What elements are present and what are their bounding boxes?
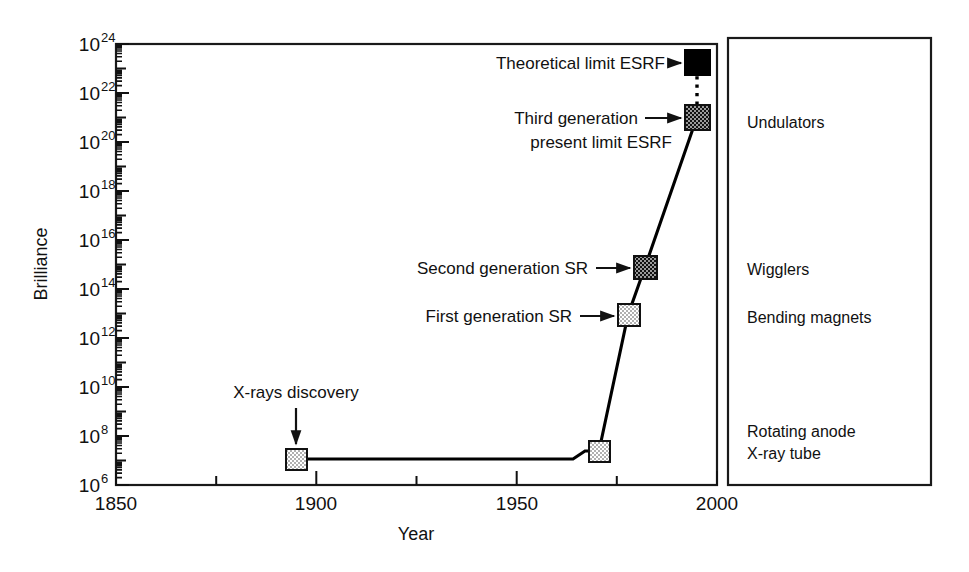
x-tick-label-2000: 2000	[696, 493, 738, 514]
annotation-third-generation-line1: Third generation	[514, 109, 638, 128]
annotation-third-generation-line2: present limit ESRF	[530, 133, 672, 152]
y-axis-tick-labels: 10 6 10 8 10 10 10 12 10 14 10 16	[79, 30, 116, 496]
y-tick-exponent: 24	[101, 30, 115, 45]
y-tick-base: 10	[79, 34, 100, 55]
marker-rotating-anode[interactable]	[589, 441, 610, 462]
y-tick-base: 10	[79, 181, 100, 202]
y-tick-base: 10	[79, 132, 100, 153]
y-tick-exponent: 8	[101, 422, 108, 437]
y-tick-label-1e8: 10 8	[79, 422, 108, 447]
legend-item-undulators: Undulators	[747, 114, 824, 131]
y-tick-exponent: 22	[101, 79, 115, 94]
legend-item-wigglers: Wigglers	[747, 261, 809, 278]
annotation-xrays-discovery-label: X-rays discovery	[233, 383, 359, 402]
y-tick-base: 10	[79, 328, 100, 349]
y-tick-exponent: 16	[101, 226, 115, 241]
y-tick-base: 10	[79, 230, 100, 251]
y-tick-label-1e10: 10 10	[79, 373, 116, 398]
marker-second-generation-sr[interactable]	[634, 256, 657, 279]
y-tick-label-1e20: 10 20	[79, 128, 116, 153]
y-tick-base: 10	[79, 377, 100, 398]
y-tick-label-1e22: 10 22	[79, 79, 116, 104]
legend-item-bending-magnets: Bending magnets	[747, 309, 872, 326]
legend-item-rotating-anode-line2: X-ray tube	[747, 445, 821, 462]
y-tick-label-1e24: 10 24	[79, 30, 116, 55]
x-axis-tick-labels: 1850 1900 1950 2000	[95, 493, 738, 514]
y-tick-label-1e16: 10 16	[79, 226, 116, 251]
y-tick-exponent: 14	[101, 275, 115, 290]
annotation-theoretical-limit-label: Theoretical limit ESRF	[496, 54, 665, 73]
x-axis-title: Year	[398, 524, 434, 544]
y-tick-base: 10	[79, 83, 100, 104]
marker-xrays-discovery[interactable]	[286, 449, 307, 470]
y-tick-exponent: 10	[101, 373, 115, 388]
annotation-second-generation-label: Second generation SR	[417, 259, 588, 278]
y-axis-title: Brilliance	[31, 227, 51, 300]
brilliance-vs-year-figure: 10 6 10 8 10 10 10 12 10 14 10 16	[0, 0, 969, 572]
x-tick-label-1850: 1850	[95, 493, 137, 514]
marker-third-generation-esrf[interactable]	[685, 105, 710, 130]
y-tick-base: 10	[79, 279, 100, 300]
chart-canvas: 10 6 10 8 10 10 10 12 10 14 10 16	[0, 0, 969, 572]
x-tick-label-1950: 1950	[496, 493, 538, 514]
legend-item-rotating-anode-line1: Rotating anode	[747, 423, 856, 440]
y-tick-exponent: 18	[101, 177, 115, 192]
y-tick-label-1e18: 10 18	[79, 177, 116, 202]
marker-theoretical-limit-esrf[interactable]	[685, 50, 710, 75]
y-tick-label-1e12: 10 12	[79, 324, 116, 349]
y-tick-exponent: 20	[101, 128, 115, 143]
y-tick-exponent: 12	[101, 324, 115, 339]
y-tick-label-1e14: 10 14	[79, 275, 116, 300]
marker-first-generation-sr[interactable]	[618, 304, 640, 326]
legend-box: Undulators Wigglers Bending magnets Rota…	[728, 38, 931, 485]
y-tick-base: 10	[79, 426, 100, 447]
annotation-first-generation-label: First generation SR	[426, 307, 572, 326]
x-tick-label-1900: 1900	[295, 493, 337, 514]
y-tick-exponent: 6	[101, 471, 108, 486]
annotation-theoretical-limit: Theoretical limit ESRF	[496, 54, 681, 73]
